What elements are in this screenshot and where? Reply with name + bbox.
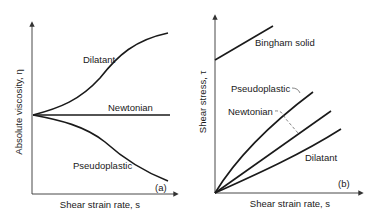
panel-label-a: (a) bbox=[155, 182, 167, 193]
panel-b: Bingham solid Pseudoplastic Newtonian Di… bbox=[197, 17, 361, 209]
label-dilatant-b: Dilatant bbox=[305, 152, 338, 163]
y-axis-label-b: Shear stress, τ bbox=[197, 71, 208, 134]
panel-a: Dilatant Newtonian Pseudoplastic (a) She… bbox=[13, 24, 176, 210]
label-pseudoplastic-b: Pseudoplastic bbox=[231, 83, 290, 94]
panel-label-b: (b) bbox=[338, 178, 350, 189]
label-pseudoplastic-a: Pseudoplastic bbox=[73, 160, 132, 171]
label-newtonian-b: Newtonian bbox=[228, 106, 273, 117]
label-bingham-solid-b: Bingham solid bbox=[255, 37, 315, 48]
label-dilatant-a: Dilatant bbox=[83, 54, 116, 65]
x-axis-label-a: Shear strain rate, s bbox=[60, 199, 141, 210]
y-axis-label-a: Absolute viscosity, η bbox=[13, 69, 24, 154]
x-axis-label-b: Shear strain rate, s bbox=[250, 198, 331, 209]
leader-pseudoplastic-b bbox=[292, 88, 300, 93]
leader-newtonian-b bbox=[275, 111, 298, 133]
label-newtonian-a: Newtonian bbox=[108, 102, 153, 113]
diagram-canvas: Dilatant Newtonian Pseudoplastic (a) She… bbox=[0, 0, 376, 214]
curve-pseudoplastic-a bbox=[33, 115, 168, 181]
